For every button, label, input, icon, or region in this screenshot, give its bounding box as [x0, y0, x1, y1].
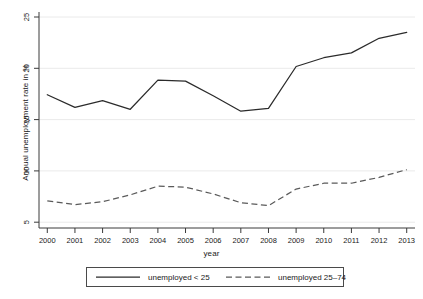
x-tick-label: 2007: [232, 236, 249, 245]
y-tick-marks: [34, 17, 39, 222]
x-tick-label: 2009: [288, 236, 305, 245]
x-tick-label: 2001: [67, 236, 84, 245]
x-tick-label: 2002: [94, 236, 111, 245]
x-tick-labels: 2000200120022003200420052006200720082009…: [39, 236, 415, 245]
y-axis-title: Annual unemployment rate in %: [21, 38, 30, 208]
legend-label-series-1: unemployed 25–74: [278, 273, 347, 282]
y-tick-label: 5: [22, 220, 31, 224]
x-tick-label: 2008: [260, 236, 277, 245]
x-tick-label: 2013: [398, 236, 415, 245]
y-tick-label: 25: [22, 13, 31, 21]
series-line-unemployed-under-25: [47, 32, 406, 111]
x-tick-label: 2010: [315, 236, 332, 245]
x-tick-label: 2012: [371, 236, 388, 245]
x-tick-label: 2004: [150, 236, 167, 245]
series-line-unemployed-25-74: [47, 170, 406, 206]
x-tick-label: 2000: [39, 236, 56, 245]
x-tick-label: 2005: [177, 236, 194, 245]
x-tick-label: 2011: [343, 236, 359, 245]
legend-label-series-0: unemployed < 25: [148, 273, 210, 282]
x-tick-label: 2003: [122, 236, 139, 245]
x-tick-label: 2006: [205, 236, 222, 245]
x-axis-title: year: [0, 249, 423, 258]
x-tick-marks: [47, 228, 406, 233]
legend: unemployed < 25 unemployed 25–74: [87, 268, 347, 287]
chart-figure: 25 20 15 10 5 20002001200220032004200520…: [0, 0, 423, 299]
gridlines: [39, 17, 415, 222]
